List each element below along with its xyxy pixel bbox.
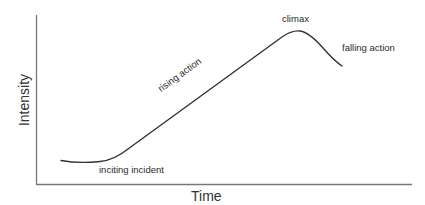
inciting-incident-label: inciting incident: [99, 164, 164, 175]
story-arc-diagram: Intensity Time inciting incident rising …: [0, 0, 425, 205]
diagram-canvas: [0, 0, 425, 205]
y-axis-label: Intensity: [16, 70, 32, 130]
climax-label: climax: [282, 13, 309, 24]
intensity-curve: [61, 31, 342, 162]
falling-action-label: falling action: [342, 42, 395, 53]
x-axis-label: Time: [191, 188, 222, 204]
